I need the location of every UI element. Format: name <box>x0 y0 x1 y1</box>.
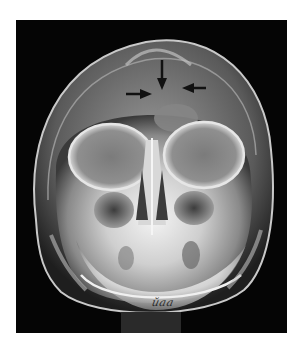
radiograph-drawing <box>16 20 287 333</box>
film-marking: ŭaa <box>151 296 175 309</box>
skull-radiograph: ŭaa <box>16 20 287 333</box>
